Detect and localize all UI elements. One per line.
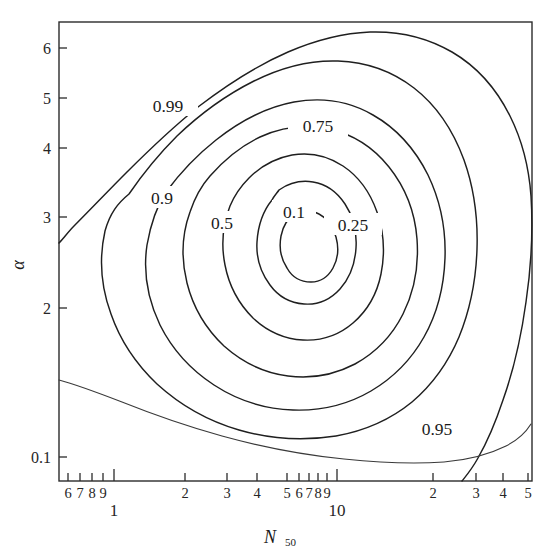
svg-text:0.75: 0.75 xyxy=(303,116,334,136)
x-tick-label: 9 xyxy=(99,485,106,501)
svg-text:0.5: 0.5 xyxy=(211,213,233,233)
contour-path-0.9 xyxy=(146,100,445,410)
x-decade-label: 10 xyxy=(329,501,346,520)
y-tick-label: 4 xyxy=(43,140,51,157)
x-axis-title-main: N xyxy=(263,527,277,547)
contour-path-0.25 xyxy=(257,181,356,304)
x-tick-label: 4 xyxy=(253,485,261,501)
x-axis-title: N 50 xyxy=(263,527,297,548)
y-tick-label: 5 xyxy=(43,90,51,107)
x-tick-label: 8 xyxy=(88,485,95,501)
contour-label-0.25: 0.25 xyxy=(324,213,382,235)
plot-frame xyxy=(59,22,532,481)
y-axis-tick-labels: 6 5 4 3 2 0.1 xyxy=(31,40,51,466)
svg-text:0.95: 0.95 xyxy=(422,419,453,439)
contour-lines xyxy=(59,32,532,481)
x-tick-label: 9 xyxy=(323,485,330,501)
x-tick-label: 5 xyxy=(524,485,531,501)
contour-label-0.75: 0.75 xyxy=(288,114,348,136)
plot-canvas: 6 7 8 9 2 3 4 5 6 7 8 9 2 3 4 5 1 10 xyxy=(0,0,552,558)
y-tick-label: 3 xyxy=(43,209,51,226)
x-axis-decade-labels: 1 10 xyxy=(110,501,346,520)
x-tick-label: 4 xyxy=(499,485,507,501)
y-axis-title: α xyxy=(8,260,28,270)
x-tick-label: 6 xyxy=(64,485,71,501)
y-tick-label: 2 xyxy=(43,300,51,317)
x-tick-label: 7 xyxy=(76,485,83,501)
contour-label-0.5: 0.5 xyxy=(199,211,245,233)
contour-label-0.9: 0.9 xyxy=(138,186,186,208)
x-decade-label: 1 xyxy=(110,501,119,520)
svg-text:0.25: 0.25 xyxy=(338,215,369,235)
svg-text:0.1: 0.1 xyxy=(283,202,305,222)
x-axis-tick-labels: 6 7 8 9 2 3 4 5 6 7 8 9 2 3 4 5 xyxy=(64,485,531,501)
x-tick-label: 8 xyxy=(314,485,321,501)
x-tick-label: 6 xyxy=(295,485,302,501)
x-tick-label: 3 xyxy=(223,485,230,501)
contour-path-0.99 xyxy=(59,32,532,481)
contour-label-0.95: 0.95 xyxy=(408,417,466,439)
contour-label-0.1: 0.1 xyxy=(272,200,316,222)
x-tick-label: 2 xyxy=(429,485,436,501)
x-axis-title-subscript: 50 xyxy=(285,536,297,548)
x-tick-label: 3 xyxy=(472,485,479,501)
contour-label-0.99: 0.99 xyxy=(138,94,198,116)
y-tick-label: 6 xyxy=(43,40,51,57)
x-tick-label: 2 xyxy=(181,485,188,501)
y-tick-label: 0.1 xyxy=(31,449,51,466)
y-axis-ticks xyxy=(59,48,67,457)
contour-plot-figure: 6 7 8 9 2 3 4 5 6 7 8 9 2 3 4 5 1 10 xyxy=(0,0,552,558)
svg-text:0.99: 0.99 xyxy=(153,96,184,116)
x-tick-label: 7 xyxy=(305,485,312,501)
x-axis-ticks xyxy=(68,469,528,481)
x-tick-label: 5 xyxy=(283,485,290,501)
svg-text:0.9: 0.9 xyxy=(151,188,173,208)
